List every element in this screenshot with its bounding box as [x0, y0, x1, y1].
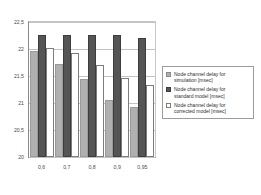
bar-standard — [38, 35, 46, 157]
bar-simulation — [30, 51, 38, 157]
legend-label-simulation: Node channel delay for simulation [msec] — [174, 71, 225, 83]
bar-standard — [88, 35, 96, 157]
y-tick-label: 20,5 — [14, 127, 24, 133]
bar-group — [54, 22, 79, 157]
bar-standard — [113, 35, 121, 157]
legend-item-simulation: Node channel delay for simulation [msec] — [166, 71, 250, 83]
bar-simulation — [55, 64, 63, 157]
bar-simulation — [80, 79, 88, 157]
x-tick-label: 0,8 — [88, 164, 95, 170]
legend-item-corrected-model: Node channel delay for corrected model [… — [166, 102, 250, 114]
bar-standard — [138, 38, 146, 157]
bar-simulation — [130, 107, 138, 157]
x-tick-label: 0,95 — [137, 164, 147, 170]
gridline — [29, 157, 155, 158]
bar-corrected — [146, 85, 154, 157]
y-axis: 2020,52121,52222,5 — [0, 21, 26, 158]
bar-corrected — [96, 65, 104, 157]
chart-legend: Node channel delay for simulation [msec]… — [162, 66, 254, 119]
bar-corrected — [71, 53, 79, 157]
legend-swatch-corrected-model-icon — [166, 103, 171, 108]
y-tick-label: 21,5 — [14, 73, 24, 79]
bar-group — [105, 22, 130, 157]
bar-group — [29, 22, 54, 157]
bar-corrected — [46, 48, 54, 157]
y-tick-label: 22,5 — [14, 19, 24, 25]
bar-simulation — [105, 100, 113, 157]
legend-swatch-standard-model-icon — [166, 87, 171, 92]
x-tick-label: 0,6 — [38, 164, 45, 170]
x-tick-label: 0,7 — [63, 164, 70, 170]
bar-group — [130, 22, 155, 157]
legend-item-standard-model: Node channel delay for standard model [m… — [166, 86, 250, 98]
bar-group — [79, 22, 104, 157]
y-tick-label: 21 — [18, 100, 24, 106]
legend-label-corrected-model: Node channel delay for corrected model [… — [174, 102, 226, 114]
x-axis: 0,60,70,80,90,95 — [29, 162, 155, 176]
bar-chart: 2020,52121,52222,5 0,60,70,80,90,95 Node… — [0, 0, 261, 195]
bars-layer — [29, 22, 155, 157]
legend-swatch-simulation-icon — [166, 72, 171, 77]
y-tick-label: 22 — [18, 46, 24, 52]
legend-label-standard-model: Node channel delay for standard model [m… — [174, 86, 225, 98]
x-tick-label: 0,9 — [114, 164, 121, 170]
bar-corrected — [121, 78, 129, 157]
bar-standard — [63, 35, 71, 157]
y-tick-label: 20 — [18, 154, 24, 160]
